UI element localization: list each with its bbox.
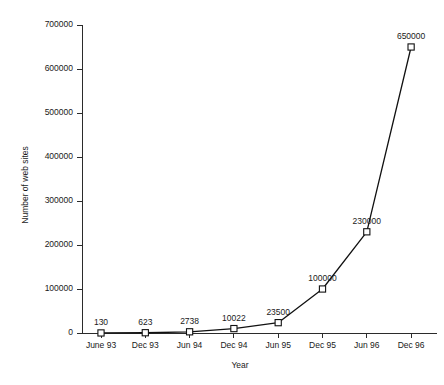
y-axis-tick-label: 500000 <box>45 107 74 117</box>
y-axis-tick-labels: 0100000200000300000400000500000600000700… <box>45 19 74 337</box>
data-series-line <box>101 47 411 333</box>
x-axis-tick-label: Dec 95 <box>309 340 336 350</box>
x-axis-tick-label: Dec 94 <box>220 340 247 350</box>
x-axis-tick-labels: June 93Dec 93Jun 94Dec 94Jun 95Dec 95Jun… <box>86 340 425 350</box>
data-point-marker <box>142 330 148 336</box>
x-axis-tick-label: Dec 93 <box>132 340 159 350</box>
data-point-marker <box>408 44 414 50</box>
y-axis-tick-label: 600000 <box>45 63 74 73</box>
data-point-marker <box>319 286 325 292</box>
y-axis-tick-label: 300000 <box>45 195 74 205</box>
data-point-marker <box>275 320 281 326</box>
y-axis-tick-label: 400000 <box>45 151 74 161</box>
data-point-marker <box>187 329 193 335</box>
line-chart-plot: 0100000200000300000400000500000600000700… <box>0 0 444 385</box>
y-axis-title: Number of web sites <box>20 146 30 223</box>
data-point-label: 230000 <box>353 216 382 226</box>
x-axis-tick-label: Dec 96 <box>398 340 425 350</box>
x-axis-tick-label: Jun 96 <box>354 340 380 350</box>
y-axis-tick-label: 100000 <box>45 283 74 293</box>
y-axis-tick-label: 700000 <box>45 19 74 29</box>
data-point-label: 100000 <box>308 273 337 283</box>
data-point-value-labels: 13062327381002223500100000230000650000 <box>94 31 426 327</box>
data-point-marker <box>364 229 370 235</box>
x-axis-title: Year <box>231 360 248 370</box>
data-point-marker <box>231 325 237 331</box>
data-point-label: 2738 <box>180 316 199 326</box>
data-point-label: 623 <box>138 317 152 327</box>
data-point-label: 10022 <box>222 313 246 323</box>
data-point-markers <box>98 44 414 336</box>
x-axis-tick-label: Jun 94 <box>177 340 203 350</box>
y-axis-tick-marks <box>77 25 82 333</box>
data-point-label: 130 <box>94 317 108 327</box>
y-axis-tick-label: 0 <box>68 327 73 337</box>
y-axis-tick-label: 200000 <box>45 239 74 249</box>
chart-container: 0100000200000300000400000500000600000700… <box>0 0 444 385</box>
data-point-label: 23500 <box>266 307 290 317</box>
data-point-marker <box>98 330 104 336</box>
data-point-label: 650000 <box>397 31 426 41</box>
x-axis-tick-label: Jun 95 <box>265 340 291 350</box>
x-axis-tick-label: June 93 <box>86 340 117 350</box>
